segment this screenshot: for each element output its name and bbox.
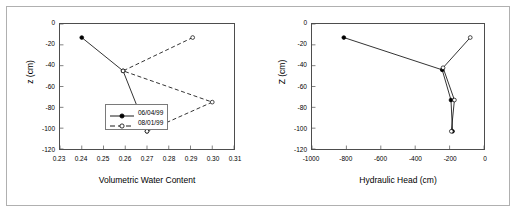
plot-area-water-content — [59, 23, 235, 150]
y-tick-label: -40 — [33, 61, 55, 68]
chart-panel-water-content: 0-20-40-60-80-100-120 0.230.240.250.260.… — [7, 7, 259, 205]
x-axis-title-hydraulic-head: Hydraulic Head (cm) — [311, 175, 485, 185]
y-tick-label: -20 — [285, 40, 307, 47]
data-point-predicted — [468, 36, 472, 40]
x-tick-label: -1000 — [297, 155, 325, 162]
legend-key-filled-circle-icon — [109, 107, 135, 117]
y-tick-label: -120 — [33, 146, 55, 153]
y-tick-label: 0 — [33, 19, 55, 26]
data-point-predicted — [453, 98, 457, 102]
y-tick-label: -120 — [285, 146, 307, 153]
y-tick-label: -40 — [285, 61, 307, 68]
legend-key-open-circle-icon — [109, 117, 135, 127]
chart-panel-hydraulic-head: 0-20-40-60-80-100-120 -1000-800-600-400-… — [257, 7, 509, 205]
plot-canvas-water-content — [60, 24, 234, 149]
data-point-predicted — [210, 100, 214, 104]
figure-frame: 0-20-40-60-80-100-120 0.230.240.250.260.… — [6, 6, 510, 206]
plot-area-hydraulic-head — [311, 23, 485, 150]
y-tick-label: -80 — [285, 104, 307, 111]
series-line-observed — [344, 38, 453, 132]
y-tick-label: -60 — [285, 83, 307, 90]
legend-label-predicted: 08/01/99 — [138, 119, 163, 126]
x-tick-label: -400 — [401, 155, 429, 162]
y-tick-label: -80 — [33, 104, 55, 111]
data-point-predicted — [449, 129, 453, 133]
data-point-observed — [342, 36, 346, 40]
x-tick-label: 0.31 — [221, 155, 249, 162]
x-tick-label: -600 — [367, 155, 395, 162]
y-tick-label: -100 — [285, 125, 307, 132]
plot-canvas-hydraulic-head — [312, 24, 484, 149]
data-point-predicted — [441, 66, 445, 70]
x-axis-title-water-content: Volumetric Water Content — [59, 175, 235, 185]
y-axis-title-hydraulic-head: Z (cm) — [277, 17, 287, 127]
data-point-predicted — [121, 69, 125, 73]
y-tick-label: -100 — [33, 125, 55, 132]
y-tick-label: -20 — [33, 40, 55, 47]
data-point-observed — [80, 36, 84, 40]
x-tick-label: -800 — [332, 155, 360, 162]
data-point-predicted — [191, 36, 195, 40]
legend-item-predicted: 08/01/99 — [109, 117, 163, 127]
y-axis-title-water-content: z (cm) — [25, 17, 35, 127]
legend-label-observed: 06/04/99 — [138, 109, 163, 116]
y-tick-label: 0 — [285, 19, 307, 26]
legend-water-content: 06/04/99 08/01/99 — [105, 104, 168, 130]
x-tick-label: 0 — [471, 155, 499, 162]
legend-item-observed: 06/04/99 — [109, 107, 163, 117]
series-line-predicted — [443, 38, 470, 132]
x-tick-label: -200 — [436, 155, 464, 162]
y-tick-label: -60 — [33, 83, 55, 90]
